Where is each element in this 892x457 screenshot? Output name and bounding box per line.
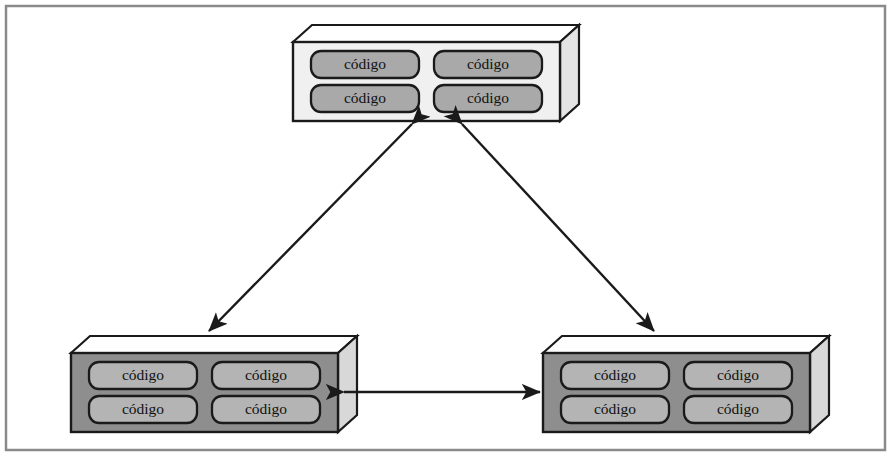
pill-bl-1[interactable] bbox=[89, 362, 197, 389]
code-node-bottom-right-top-face bbox=[543, 336, 829, 353]
code-node-top: códigocódigocódigocódigo bbox=[293, 25, 579, 121]
code-node-bottom-left-top-face bbox=[71, 336, 357, 353]
pill-br-3[interactable] bbox=[561, 396, 669, 423]
pill-br-4[interactable] bbox=[684, 396, 792, 423]
code-node-top-side-face bbox=[560, 25, 579, 121]
diagram-svg: códigocódigocódigocódigocódigocódigocódi… bbox=[0, 0, 892, 457]
code-node-bottom-right-side-face bbox=[810, 336, 829, 432]
pill-top-4[interactable] bbox=[434, 85, 542, 112]
code-node-bottom-left-side-face bbox=[338, 336, 357, 432]
diagram-canvas: códigocódigocódigocódigocódigocódigocódi… bbox=[0, 0, 892, 457]
pill-br-1[interactable] bbox=[561, 362, 669, 389]
pill-bl-3[interactable] bbox=[89, 396, 197, 423]
pill-bl-4[interactable] bbox=[212, 396, 320, 423]
code-node-top-top-face bbox=[293, 25, 579, 42]
code-node-bottom-left: códigocódigocódigocódigo bbox=[71, 336, 357, 432]
pill-bl-2[interactable] bbox=[212, 362, 320, 389]
code-node-bottom-right: códigocódigocódigocódigo bbox=[543, 336, 829, 432]
pill-br-2[interactable] bbox=[684, 362, 792, 389]
pill-top-3[interactable] bbox=[311, 85, 419, 112]
pill-top-2[interactable] bbox=[434, 51, 542, 78]
pill-top-1[interactable] bbox=[311, 51, 419, 78]
